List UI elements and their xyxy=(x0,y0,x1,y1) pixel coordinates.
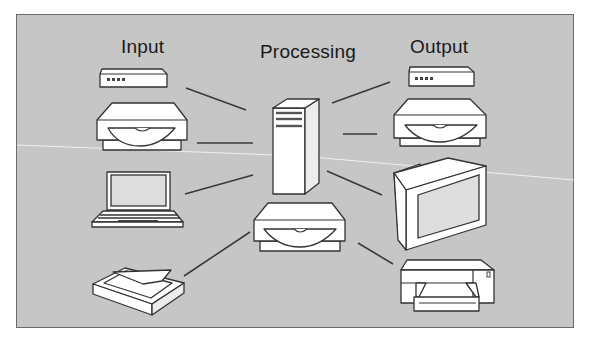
output-disk-drive-icon xyxy=(394,99,486,146)
edge-laptop-server xyxy=(185,175,253,194)
input-disk-drive-icon xyxy=(97,103,187,150)
processing-server-icon xyxy=(273,99,319,194)
edge-server-monitor xyxy=(327,171,382,195)
edge-disk-printer xyxy=(358,243,393,264)
processing-disk-drive-icon xyxy=(254,203,345,251)
edge-scanner-disk xyxy=(184,232,250,276)
input-modem-icon xyxy=(100,69,167,87)
output-modem-icon xyxy=(409,67,474,86)
diagram-canvas xyxy=(0,0,591,341)
input-laptop-icon xyxy=(92,172,183,227)
edge-input-modem-server xyxy=(186,88,246,110)
output-printer-icon xyxy=(401,260,494,311)
input-scanner-icon xyxy=(93,268,184,315)
edge-server-output-modem xyxy=(332,82,390,103)
output-monitor-icon xyxy=(394,158,486,250)
